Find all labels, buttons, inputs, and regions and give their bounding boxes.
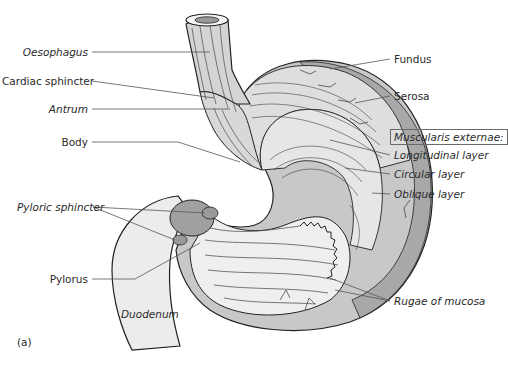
- label-pyloric-sphincter: Pyloric sphincter: [17, 201, 104, 213]
- label-serosa: Serosa: [394, 90, 430, 102]
- label-antrum: Antrum: [2, 103, 88, 115]
- label-cardiac-sphincter: Cardiac sphincter: [2, 75, 88, 87]
- label-circular-layer: Circular layer: [394, 168, 464, 180]
- label-body: Body: [2, 136, 88, 148]
- panel-label: (a): [17, 336, 32, 348]
- label-duodenum: Duodenum: [121, 308, 179, 320]
- label-rugae-of-mucosa: Rugae of mucosa: [394, 295, 485, 307]
- label-fundus: Fundus: [394, 53, 432, 65]
- label-oblique-layer: Oblique layer: [394, 188, 464, 200]
- pyloric-sphincter-lower: [173, 235, 187, 245]
- label-pylorus: Pylorus: [2, 273, 88, 285]
- label-longitudinal-layer: Longitudinal layer: [394, 149, 489, 161]
- label-oesophagus: Oesophagus: [2, 46, 88, 58]
- label-muscularis-externae: Muscularis externae:: [390, 129, 508, 145]
- oesophagus-shape: [186, 17, 250, 104]
